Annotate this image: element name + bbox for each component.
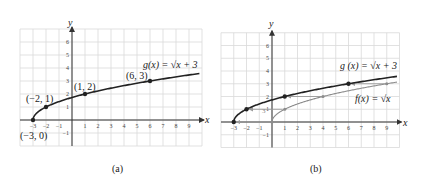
- panel-b-equation-f: f(x) = √x: [355, 93, 391, 105]
- x-tick-label: 8: [175, 123, 178, 129]
- panel-a-equation-label: g(x) = √x + 3: [143, 59, 198, 71]
- data-point: [148, 79, 152, 83]
- y-tick-label: 1: [66, 104, 69, 110]
- point-label-1-2: (1, 2): [74, 81, 96, 93]
- panel-b-equation-g: g (x) = √x + 3: [340, 60, 397, 72]
- y-tick-label: 3: [266, 81, 269, 87]
- panel-b-caption: (b): [310, 163, 322, 175]
- y-tick-label: 3: [66, 78, 69, 84]
- x-tick-label: 5: [334, 125, 337, 131]
- data-point: [346, 82, 350, 86]
- x-tick-label: 4: [322, 125, 325, 131]
- y-tick-label: 2: [66, 91, 69, 97]
- y-tick-label: 6: [266, 43, 269, 49]
- x-tick-label: 5: [136, 123, 139, 129]
- y-tick-label: 5: [266, 55, 269, 61]
- point-label-minus3-0: (−3, 0): [20, 130, 47, 142]
- y-tick-label: 4: [66, 65, 69, 71]
- data-point: [283, 94, 287, 98]
- panel-a: −3−2−1123456789−1123456: [20, 27, 204, 146]
- panel-a-y-axis-label: y: [67, 17, 73, 28]
- x-tick-label: −2: [43, 123, 49, 129]
- x-tick-label: 3: [110, 123, 113, 129]
- x-tick-label: 1: [283, 125, 286, 131]
- x-tick-label: 2: [97, 123, 100, 129]
- x-tick-label: −2: [243, 125, 249, 131]
- y-tick-label: 5: [66, 52, 69, 58]
- y-tick-label: 2: [266, 94, 269, 100]
- x-tick-label: −3: [231, 125, 237, 131]
- g-curve: [33, 73, 199, 120]
- x-tick-label: 2: [296, 125, 299, 131]
- x-tick-label: 7: [360, 125, 363, 131]
- y-tick-label: −1: [263, 132, 269, 138]
- point-label-minus2-1: (−2, 1): [26, 93, 53, 105]
- x-tick-label: −1: [56, 123, 62, 129]
- x-tick-label: −3: [30, 123, 36, 129]
- shift-amount-label: 3: [262, 107, 266, 115]
- data-point: [31, 118, 35, 122]
- x-tick-label: 6: [149, 123, 152, 129]
- x-tick-label: 8: [373, 125, 376, 131]
- data-point: [244, 107, 248, 111]
- figure-canvas: −3−2−1123456789−1123456 −3−2−1123456789−…: [0, 0, 423, 190]
- y-tick-label: 6: [66, 39, 69, 45]
- panel-b: −3−2−1123456789−1123456: [221, 31, 402, 148]
- x-tick-label: 6: [347, 125, 350, 131]
- x-tick-label: 9: [188, 123, 191, 129]
- panel-a-x-axis-label: x: [204, 114, 210, 125]
- y-tick-label: 4: [266, 68, 269, 74]
- panel-b-x-axis-label: x: [402, 117, 408, 128]
- data-point: [44, 105, 48, 109]
- data-point: [83, 92, 87, 96]
- panel-b-y-axis-label: y: [268, 18, 274, 29]
- data-point: [270, 120, 273, 123]
- x-tick-label: −1: [256, 125, 262, 131]
- x-tick-label: 1: [84, 123, 87, 129]
- x-tick-label: 4: [123, 123, 126, 129]
- x-tick-label: 3: [309, 125, 312, 131]
- y-tick-label: −1: [63, 130, 69, 136]
- data-point: [232, 120, 236, 124]
- data-point: [385, 82, 388, 85]
- x-tick-label: 7: [162, 123, 165, 129]
- x-tick-label: 9: [385, 125, 388, 131]
- point-label-6-3: (6, 3): [126, 70, 148, 82]
- data-point: [283, 108, 286, 111]
- data-point: [321, 95, 324, 98]
- panel-a-caption: (a): [112, 163, 123, 175]
